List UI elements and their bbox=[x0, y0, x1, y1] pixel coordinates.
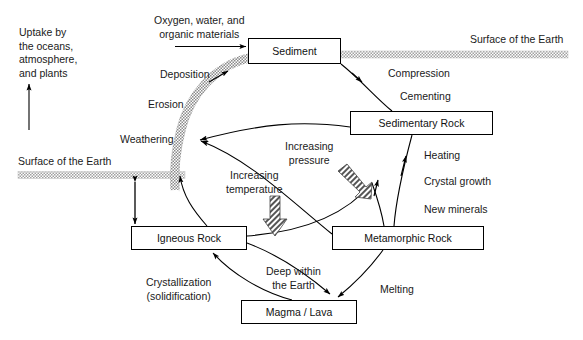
label-deposition: Deposition bbox=[160, 68, 210, 82]
increasing-temperature-arrow bbox=[263, 196, 287, 236]
label-crystal-growth: Crystal growth bbox=[424, 175, 491, 189]
label-deep-within-the-earth: Deep within the Earth bbox=[266, 265, 321, 292]
label-surface-of-earth-right: Surface of the Earth bbox=[470, 33, 563, 47]
label-cementing: Cementing bbox=[400, 90, 451, 104]
box-sedimentary-rock-label: Sedimentary Rock bbox=[379, 117, 465, 129]
label-oxygen-water-organic: Oxygen, water, and organic materials bbox=[154, 14, 244, 41]
box-sedimentary-rock[interactable]: Sedimentary Rock bbox=[350, 111, 493, 135]
box-igneous-rock[interactable]: Igneous Rock bbox=[131, 226, 247, 250]
box-magma-lava-label: Magma / Lava bbox=[266, 306, 333, 318]
arrow-sediment-to-sedimentary bbox=[341, 64, 392, 111]
arrow-igneous-to-surface bbox=[180, 176, 207, 226]
box-sediment-label: Sediment bbox=[272, 45, 316, 57]
box-magma-lava[interactable]: Magma / Lava bbox=[241, 300, 357, 324]
label-compression: Compression bbox=[388, 67, 450, 81]
arrow-sedimentary-to-weathering bbox=[200, 124, 350, 140]
label-increasing-temperature: Increasing temperature bbox=[226, 169, 283, 196]
rock-cycle-diagram: Sediment Sedimentary Rock Igneous Rock M… bbox=[0, 0, 583, 340]
arrow-sedimentary-to-metamorphic bbox=[394, 135, 412, 226]
box-metamorphic-rock[interactable]: Metamorphic Rock bbox=[332, 226, 484, 250]
label-increasing-pressure: Increasing pressure bbox=[285, 140, 333, 167]
box-igneous-rock-label: Igneous Rock bbox=[157, 232, 221, 244]
label-crystallization: Crystallization (solidification) bbox=[146, 276, 211, 303]
label-surface-of-earth-left: Surface of the Earth bbox=[18, 155, 111, 169]
box-sediment[interactable]: Sediment bbox=[248, 38, 341, 64]
curve-metamorphic-loop bbox=[372, 183, 384, 226]
label-melting: Melting bbox=[380, 283, 414, 297]
label-weathering: Weathering bbox=[120, 133, 174, 147]
surface-band-left bbox=[18, 172, 185, 179]
label-erosion: Erosion bbox=[148, 98, 184, 112]
box-metamorphic-rock-label: Metamorphic Rock bbox=[364, 232, 452, 244]
arrow-metamorphic-to-magma bbox=[338, 250, 383, 297]
arrowhead-heating bbox=[401, 156, 406, 176]
label-new-minerals: New minerals bbox=[424, 203, 488, 217]
surface-band-right bbox=[341, 51, 568, 58]
label-uptake: Uptake by the oceans, atmosphere, and pl… bbox=[19, 26, 77, 80]
label-heating: Heating bbox=[424, 149, 460, 163]
increasing-pressure-arrow bbox=[338, 164, 372, 199]
arrowhead-compression bbox=[352, 73, 362, 82]
